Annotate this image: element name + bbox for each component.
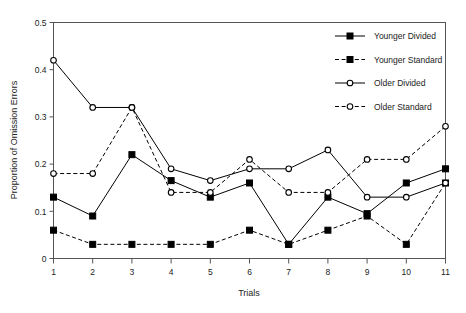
data-point-filled-square: [403, 180, 409, 186]
y-tick-label: 0.5: [35, 18, 47, 28]
data-point-filled-square: [347, 33, 353, 39]
x-tick-label: 5: [208, 267, 213, 277]
data-point-filled-square: [129, 152, 135, 158]
data-point-open-circle: [51, 57, 57, 63]
data-point-open-circle: [247, 157, 253, 163]
y-tick-label: 0.4: [35, 65, 47, 75]
data-point-open-circle: [247, 166, 253, 172]
data-point-open-circle: [168, 190, 174, 196]
data-point-open-circle: [404, 157, 410, 163]
chart-background: [0, 0, 466, 313]
y-tick-label: 0.1: [35, 207, 47, 217]
x-tick-label: 3: [130, 267, 135, 277]
data-point-filled-square: [51, 194, 57, 200]
data-point-open-circle: [325, 147, 331, 153]
legend-label: Older Standard: [374, 102, 432, 112]
data-point-open-circle: [404, 194, 410, 200]
x-tick-label: 1: [51, 267, 56, 277]
data-point-open-circle: [347, 104, 353, 110]
data-point-open-circle: [364, 157, 370, 163]
data-point-open-circle: [208, 190, 214, 196]
x-axis-label: Trials: [238, 288, 260, 298]
data-point-filled-square: [247, 227, 253, 233]
figure-container: 00.10.20.30.40.5 1234567891011 Proportio…: [0, 0, 466, 313]
data-point-open-circle: [286, 166, 292, 172]
y-axis-label: Proportion of Omission Errors: [9, 80, 19, 199]
data-point-filled-square: [129, 241, 135, 247]
x-tick-label: 4: [169, 267, 174, 277]
x-tick-label: 6: [247, 267, 252, 277]
data-point-open-circle: [286, 190, 292, 196]
y-tick-label: 0: [42, 254, 47, 264]
x-tick-label: 9: [365, 267, 370, 277]
data-point-open-circle: [325, 190, 331, 196]
data-point-filled-square: [443, 166, 449, 172]
x-tick-label: 7: [286, 267, 291, 277]
data-point-filled-square: [168, 178, 174, 184]
data-point-open-circle: [364, 194, 370, 200]
legend-label: Younger Divided: [374, 31, 436, 41]
data-point-open-circle: [347, 80, 353, 86]
data-point-open-circle: [168, 166, 174, 172]
data-point-filled-square: [247, 180, 253, 186]
data-point-open-circle: [443, 180, 449, 186]
data-point-filled-square: [207, 241, 213, 247]
data-point-open-circle: [129, 105, 135, 111]
data-point-open-circle: [90, 171, 96, 177]
data-point-filled-square: [403, 241, 409, 247]
legend-label: Older Divided: [374, 78, 426, 88]
y-tick-label: 0.2: [35, 159, 47, 169]
omission-errors-line-chart: 00.10.20.30.40.5 1234567891011 Proportio…: [0, 0, 466, 313]
data-point-open-circle: [208, 178, 214, 184]
data-point-open-circle: [51, 171, 57, 177]
data-point-filled-square: [51, 227, 57, 233]
data-point-filled-square: [286, 241, 292, 247]
data-point-filled-square: [347, 57, 353, 63]
y-tick-label: 0.3: [35, 112, 47, 122]
x-tick-label: 2: [90, 267, 95, 277]
x-tick-label: 8: [326, 267, 331, 277]
data-point-filled-square: [90, 213, 96, 219]
data-point-open-circle: [443, 124, 449, 130]
x-tick-label: 10: [402, 267, 412, 277]
legend-label: Younger Standard: [374, 55, 442, 65]
data-point-open-circle: [90, 105, 96, 111]
data-point-filled-square: [325, 227, 331, 233]
x-tick-label: 11: [441, 267, 450, 277]
data-point-filled-square: [364, 213, 370, 219]
data-point-filled-square: [168, 241, 174, 247]
data-point-filled-square: [90, 241, 96, 247]
